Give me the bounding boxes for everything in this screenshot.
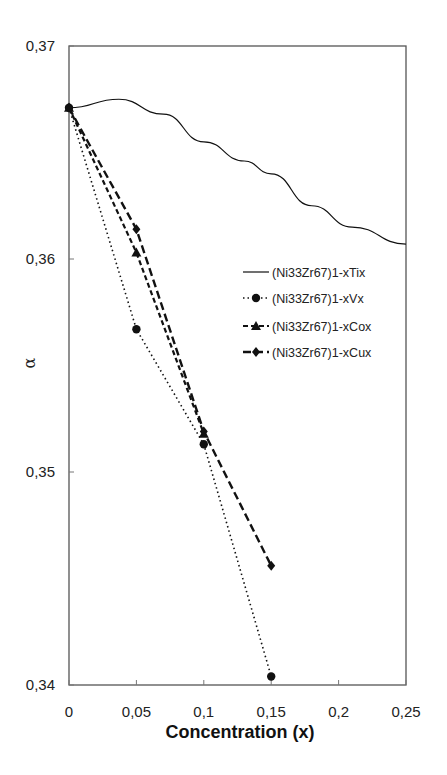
legend-label: (Ni33Zr67)1-xVx — [272, 292, 364, 306]
legend-label: (Ni33Zr67)1-xCox — [272, 320, 372, 334]
legend-item: (Ni33Zr67)1-xTix — [243, 266, 366, 280]
chart: 0,340,350,360,3700,050,10,150,20,25 (Ni3… — [0, 0, 447, 775]
legend-label: (Ni33Zr67)1-xCux — [272, 346, 372, 360]
series-line — [69, 99, 406, 244]
series-line — [69, 108, 271, 677]
y-tick-label: 0,36 — [26, 250, 55, 267]
plot-frame — [69, 46, 406, 685]
triangle-marker — [131, 248, 141, 257]
y-tick-label: 0,34 — [26, 676, 55, 693]
series--ni33zr67-1-xtix — [69, 99, 406, 244]
legend-item: (Ni33Zr67)1-xCox — [243, 320, 372, 334]
x-tick-label: 0,05 — [122, 703, 151, 720]
legend: (Ni33Zr67)1-xTix(Ni33Zr67)1-xVx(Ni33Zr67… — [243, 266, 372, 360]
x-tick-label: 0,2 — [328, 703, 349, 720]
x-tick-label: 0,25 — [391, 703, 420, 720]
series--ni33zr67-1-xcux — [65, 103, 275, 571]
circle-marker — [252, 294, 260, 302]
legend-label: (Ni33Zr67)1-xTix — [272, 266, 366, 280]
y-tick-label: 0,37 — [26, 37, 55, 54]
series-line — [69, 108, 204, 434]
legend-item: (Ni33Zr67)1-xCux — [243, 346, 372, 360]
circle-marker — [200, 440, 208, 448]
diamond-marker — [252, 347, 260, 357]
x-axis-title: Concentration (x) — [165, 722, 314, 742]
axis-ticks: 0,340,350,360,3700,050,10,150,20,25 — [26, 37, 421, 720]
series--ni33zr67-1-xcox — [64, 103, 209, 438]
data-series — [64, 99, 406, 680]
legend-item: (Ni33Zr67)1-xVx — [243, 292, 364, 306]
x-tick-label: 0 — [65, 703, 73, 720]
series-line — [69, 108, 271, 566]
plot-area-border — [69, 46, 406, 685]
x-tick-label: 0,1 — [193, 703, 214, 720]
y-axis-title: α — [20, 357, 39, 368]
y-tick-label: 0,35 — [26, 463, 55, 480]
series--ni33zr67-1-xvx — [65, 104, 276, 681]
circle-marker — [132, 325, 140, 333]
circle-marker — [267, 672, 275, 680]
x-tick-label: 0,15 — [257, 703, 286, 720]
